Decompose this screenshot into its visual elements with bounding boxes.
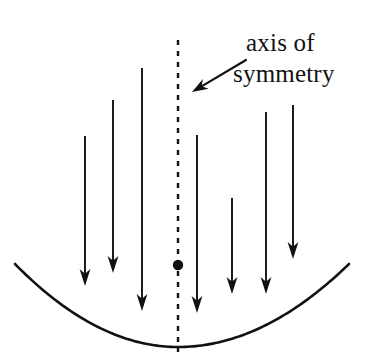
axis-of-symmetry-label-line2: symmetry bbox=[233, 59, 335, 89]
arrow-right-2 bbox=[227, 198, 238, 294]
arrow-left-1 bbox=[80, 136, 91, 286]
diagram-canvas bbox=[0, 0, 372, 357]
arrow-left-2 bbox=[108, 100, 119, 273]
arrow-left-3 bbox=[137, 68, 148, 311]
focus-point bbox=[173, 260, 183, 270]
arrow-right-1 bbox=[192, 135, 203, 313]
down-arrow-field bbox=[80, 68, 299, 313]
arrow-right-4 bbox=[288, 105, 299, 259]
arrow-right-3 bbox=[261, 112, 272, 294]
parabola-axis-of-symmetry-figure: axis of symmetry bbox=[0, 0, 372, 357]
filled-dot-icon bbox=[173, 260, 183, 270]
parabola-curve-icon bbox=[15, 264, 349, 347]
axis-of-symmetry-label-line1: axis of bbox=[246, 28, 315, 58]
parabola-curve bbox=[15, 264, 349, 347]
arrow-left-down-head-icon bbox=[192, 79, 209, 92]
